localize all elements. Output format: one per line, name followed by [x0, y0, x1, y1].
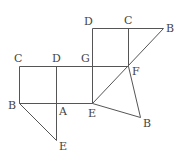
point-label-a: A [59, 106, 67, 117]
point-label-c1: C [14, 53, 22, 64]
point-label-g: G [81, 53, 90, 64]
point-label-e1: E [88, 108, 96, 119]
point-label-b3: B [143, 118, 151, 129]
point-label-f: F [132, 66, 140, 77]
diagram-lines [0, 0, 189, 164]
point-label-b2: B [166, 23, 174, 34]
point-label-b1: B [8, 100, 16, 111]
point-label-d2: D [84, 16, 93, 27]
point-label-e2: E [59, 141, 67, 152]
segment [20, 104, 57, 141]
point-label-c2: C [124, 15, 132, 26]
point-label-d1: D [52, 53, 61, 64]
geometry-diagram: CDGBAEEDCBFB [0, 0, 189, 164]
segment [93, 104, 141, 118]
